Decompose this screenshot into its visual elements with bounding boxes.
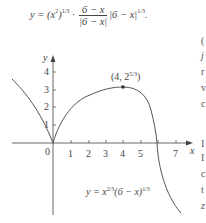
max-point-marker xyxy=(121,85,125,89)
x-tick-4: 4 xyxy=(120,148,125,159)
x-axis-label: x xyxy=(189,145,195,156)
max-point-label: (4, 25/3) xyxy=(111,71,140,83)
curve-label: y = x2/3(6 − x)1/3 xyxy=(85,186,150,198)
x-tick-7: 7 xyxy=(173,148,178,159)
y-tick-3: 3 xyxy=(44,84,49,95)
y-axis-label: y xyxy=(42,52,48,63)
x-tick-1: 1 xyxy=(68,148,73,159)
chart: 0 1 2 3 4 5 7 1 2 3 4 x y (4, 25/3) y = … xyxy=(0,0,206,223)
x-tick-2: 2 xyxy=(86,148,91,159)
x-tick-3: 3 xyxy=(103,148,108,159)
x-tick-0: 0 xyxy=(45,146,50,157)
x-tick-5: 5 xyxy=(138,148,143,159)
y-tick-4: 4 xyxy=(44,66,49,77)
curve-main-arc xyxy=(53,87,157,143)
y-axis-arrow-icon xyxy=(51,55,56,62)
y-tick-2: 2 xyxy=(44,101,49,112)
